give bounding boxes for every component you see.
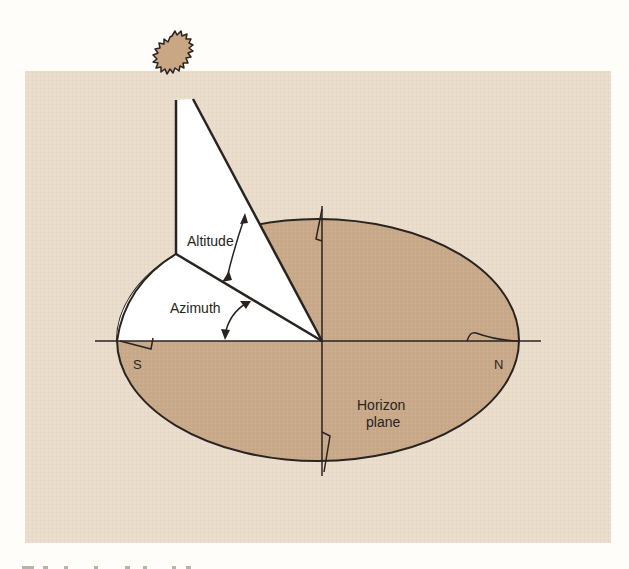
south-label: S bbox=[133, 357, 142, 372]
horizon-plane-label-line2: plane bbox=[366, 414, 400, 430]
diagram-canvas: Altitude Azimuth S N Horizon plane bbox=[0, 0, 629, 569]
sun-icon bbox=[153, 31, 193, 74]
horizon-plane-label-line1: Horizon bbox=[357, 397, 405, 413]
azimuth-label: Azimuth bbox=[170, 300, 221, 316]
altitude-label: Altitude bbox=[187, 233, 234, 249]
north-label: N bbox=[494, 357, 503, 372]
